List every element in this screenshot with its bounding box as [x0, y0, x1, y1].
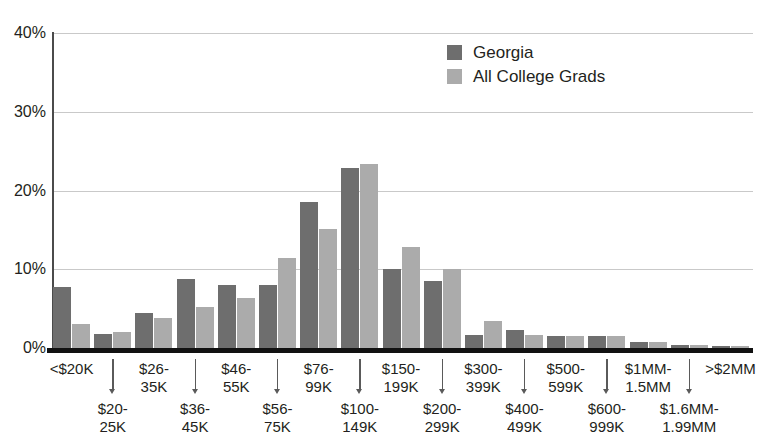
legend-item: All College Grads — [447, 64, 605, 88]
legend-color-swatch — [447, 45, 462, 60]
bar — [94, 334, 112, 348]
bar — [443, 269, 461, 348]
bar — [319, 229, 337, 348]
bar — [712, 346, 730, 348]
bar — [525, 335, 543, 348]
bar — [177, 279, 195, 348]
x-axis-category-label: $76- 99K — [276, 360, 362, 395]
legend-item-label: All College Grads — [473, 68, 605, 85]
bar — [671, 345, 689, 348]
bar — [237, 298, 255, 348]
bar — [53, 287, 71, 348]
bar — [424, 281, 442, 348]
bar — [135, 313, 153, 348]
bar — [506, 330, 524, 348]
x-axis-category-label: $26- 35K — [111, 360, 197, 395]
bar — [360, 164, 378, 348]
legend-item-label: Georgia — [473, 44, 533, 61]
bar — [300, 202, 318, 348]
bar — [547, 336, 565, 348]
x-axis-category-label: $500- 599K — [523, 360, 609, 395]
x-axis-category-label: <$20K — [29, 360, 115, 378]
y-axis-tick-label: 0% — [0, 340, 46, 356]
x-axis-line — [47, 348, 753, 353]
x-axis-category-label: $400- 499K — [482, 400, 568, 435]
bar — [484, 321, 502, 348]
bar — [383, 269, 401, 348]
x-axis-category-labels: <$20K$20- 25K$26- 35K$36- 45K$46- 55K$56… — [0, 355, 758, 446]
x-axis-category-label: $56- 75K — [234, 400, 320, 435]
bar — [259, 285, 277, 348]
bar — [72, 324, 90, 348]
bar-series-layer — [53, 33, 753, 348]
bar — [196, 307, 214, 348]
bar — [341, 168, 359, 348]
x-axis-category-label: $36- 45K — [152, 400, 238, 435]
x-axis-category-label: $200- 299K — [399, 400, 485, 435]
bar — [218, 285, 236, 348]
bar — [690, 345, 708, 348]
y-axis-tick-label: 30% — [0, 104, 46, 120]
x-axis-category-label: $300- 399K — [440, 360, 526, 395]
income-distribution-bar-chart: 40%30%20%10%0% GeorgiaAll College Grads … — [0, 0, 758, 446]
bar — [566, 336, 584, 348]
legend-item: Georgia — [447, 40, 605, 64]
x-axis-category-label: $46- 55K — [193, 360, 279, 395]
chart-legend: GeorgiaAll College Grads — [447, 40, 605, 88]
y-axis-tick-label: 10% — [0, 261, 46, 277]
bar — [154, 318, 172, 348]
bar — [113, 332, 131, 348]
bar — [731, 346, 749, 348]
bar — [588, 336, 606, 348]
x-axis-category-label: $1.6MM- 1.99MM — [646, 400, 732, 435]
bar — [630, 342, 648, 348]
x-axis-category-label: $1MM- 1.5MM — [605, 360, 691, 395]
bar — [607, 336, 625, 348]
bar — [402, 247, 420, 348]
bar — [649, 342, 667, 348]
x-axis-category-label: $150- 199K — [358, 360, 444, 395]
y-axis-tick-label: 40% — [0, 25, 46, 41]
x-axis-category-label: $100- 149K — [317, 400, 403, 435]
x-axis-category-label: $20- 25K — [70, 400, 156, 435]
x-axis-category-label: $600- 999K — [564, 400, 650, 435]
bar — [465, 335, 483, 348]
y-axis-tick-label: 20% — [0, 183, 46, 199]
legend-color-swatch — [447, 69, 462, 84]
bar — [278, 258, 296, 348]
x-axis-category-label: >$2MM — [687, 360, 758, 378]
